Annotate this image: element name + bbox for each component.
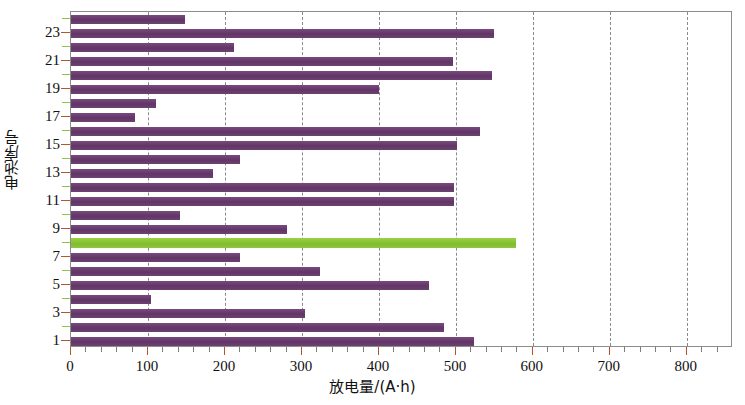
- y-tick-major: [61, 32, 70, 33]
- bar: [71, 295, 151, 304]
- bar: [71, 337, 474, 346]
- x-tick-minor: [424, 347, 425, 352]
- x-tick-label: 100: [136, 357, 159, 375]
- y-tick-minor: [62, 18, 70, 19]
- y-tick-major: [61, 284, 70, 285]
- y-tick-label: 23: [45, 24, 60, 40]
- bar: [71, 281, 429, 290]
- y-tick-major: [61, 88, 70, 89]
- x-tick-minor: [239, 347, 240, 352]
- y-tick-major: [61, 340, 70, 341]
- y-tick-major: [61, 256, 70, 257]
- gridline: [533, 12, 534, 346]
- y-tick-major: [61, 144, 70, 145]
- x-tick-minor: [286, 347, 287, 352]
- y-tick-label: 15: [45, 136, 60, 152]
- y-tick-major: [61, 200, 70, 201]
- x-tick-minor: [439, 347, 440, 352]
- bar: [71, 113, 135, 122]
- x-tick-minor: [116, 347, 117, 352]
- x-tick-minor: [85, 347, 86, 352]
- bar: [71, 211, 180, 220]
- x-tick-minor: [501, 347, 502, 352]
- bar: [71, 71, 492, 80]
- x-tick-minor: [655, 347, 656, 352]
- x-tick-major: [301, 347, 302, 355]
- gridline: [687, 12, 688, 346]
- x-tick-label: 0: [66, 357, 74, 375]
- y-tick-label: 3: [53, 304, 61, 320]
- y-tick-label: 19: [45, 80, 60, 96]
- y-tick-label: 11: [46, 192, 60, 208]
- bar: [71, 29, 494, 38]
- y-tick-major: [61, 172, 70, 173]
- x-tick-major: [532, 347, 533, 355]
- x-tick-minor: [101, 347, 102, 352]
- x-tick-label: 700: [598, 357, 621, 375]
- x-tick-minor: [132, 347, 133, 352]
- bar: [71, 99, 156, 108]
- y-tick-minor: [62, 270, 70, 271]
- y-tick-minor: [62, 186, 70, 187]
- gridline: [610, 12, 611, 346]
- bar: [71, 43, 234, 52]
- y-tick-minor: [62, 74, 70, 75]
- x-tick-minor: [409, 347, 410, 352]
- bar: [71, 85, 379, 94]
- x-tick-major: [378, 347, 379, 355]
- y-axis-tick-labels: 1357911131517192123: [14, 11, 60, 347]
- y-tick-minor: [62, 242, 70, 243]
- y-tick-minor: [62, 214, 70, 215]
- y-tick-major: [61, 228, 70, 229]
- x-tick-minor: [486, 347, 487, 352]
- x-tick-major: [455, 347, 456, 355]
- bar: [71, 15, 185, 24]
- bar: [71, 309, 305, 318]
- x-axis-tick-labels: 0100200300400500600700800: [0, 357, 745, 377]
- x-tick-major: [147, 347, 148, 355]
- x-axis-title: 放电量/(A·h): [0, 378, 745, 396]
- x-tick-minor: [209, 347, 210, 352]
- bar: [71, 57, 453, 66]
- x-tick-major: [224, 347, 225, 355]
- x-tick-minor: [393, 347, 394, 352]
- x-tick-label: 200: [213, 357, 236, 375]
- x-tick-major: [609, 347, 610, 355]
- x-tick-minor: [701, 347, 702, 352]
- x-tick-minor: [332, 347, 333, 352]
- bar: [71, 323, 444, 332]
- bar: [71, 155, 240, 164]
- bar: [71, 197, 454, 206]
- bar: [71, 127, 480, 136]
- bar-highlighted: [71, 238, 516, 248]
- x-tick-major: [70, 347, 71, 355]
- y-tick-label: 7: [53, 248, 61, 264]
- x-tick-minor: [193, 347, 194, 352]
- y-tick-label: 9: [53, 220, 61, 236]
- x-axis-ticks: [70, 347, 732, 357]
- y-tick-label: 5: [53, 276, 61, 292]
- x-tick-label: 600: [521, 357, 544, 375]
- y-tick-minor: [62, 298, 70, 299]
- y-tick-major: [61, 116, 70, 117]
- x-tick-minor: [640, 347, 641, 352]
- x-tick-label: 400: [367, 357, 390, 375]
- x-tick-minor: [624, 347, 625, 352]
- x-tick-minor: [578, 347, 579, 352]
- plot-area: [70, 11, 732, 347]
- x-tick-minor: [178, 347, 179, 352]
- bar: [71, 267, 320, 276]
- x-tick-label: 800: [675, 357, 698, 375]
- x-tick-minor: [162, 347, 163, 352]
- y-tick-minor: [62, 130, 70, 131]
- bar: [71, 225, 287, 234]
- x-tick-label: 300: [290, 357, 313, 375]
- y-tick-label: 21: [45, 52, 60, 68]
- y-tick-label: 13: [45, 164, 60, 180]
- y-tick-minor: [62, 102, 70, 103]
- x-tick-minor: [347, 347, 348, 352]
- bar: [71, 169, 213, 178]
- y-tick-major: [61, 60, 70, 61]
- x-tick-minor: [470, 347, 471, 352]
- bar: [71, 183, 454, 192]
